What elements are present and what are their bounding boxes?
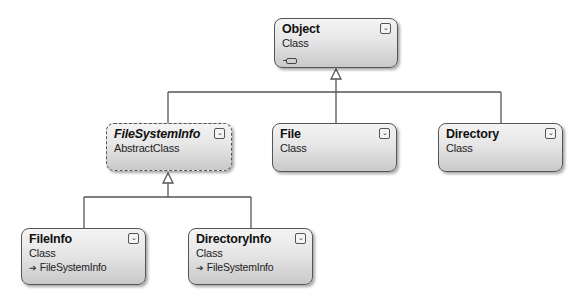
class-name: Directory: [446, 127, 556, 142]
class-kind: Class: [29, 247, 139, 260]
base-class-name: FileSystemInfo: [207, 261, 274, 273]
class-fileinfo[interactable]: FileInfo Class ➔FileSystemInfo ⌄: [21, 228, 146, 285]
collapse-chevron-icon[interactable]: ⌄: [545, 128, 556, 139]
inheritance-arrow-object: [331, 69, 341, 79]
class-name: DirectoryInfo: [196, 232, 306, 247]
base-class-name: FileSystemInfo: [40, 261, 107, 273]
class-file[interactable]: File Class ⌄: [272, 123, 397, 172]
collapse-chevron-icon[interactable]: ⌄: [380, 23, 391, 34]
class-kind: Class: [196, 247, 306, 260]
class-directoryinfo[interactable]: DirectoryInfo Class ➔FileSystemInfo ⌄: [188, 228, 313, 285]
collapse-chevron-icon[interactable]: ⌄: [295, 233, 306, 244]
class-kind: Class: [282, 37, 391, 50]
class-object[interactable]: Object Class ⌄: [274, 18, 398, 68]
base-class-label: ➔FileSystemInfo: [196, 260, 306, 275]
class-kind: Class: [446, 142, 556, 155]
class-kind: Class: [280, 142, 390, 155]
inheritance-arrow-filesysteminfo: [163, 173, 173, 183]
collapse-chevron-icon[interactable]: ⌄: [379, 128, 390, 139]
class-name: File: [280, 127, 390, 142]
inherits-arrow-icon: ➔: [29, 263, 37, 273]
class-kind: AbstractClass: [114, 142, 225, 155]
inherits-arrow-icon: ➔: [196, 263, 204, 273]
collapse-chevron-icon[interactable]: ⌄: [214, 128, 225, 139]
field-icon: [282, 50, 391, 68]
class-name: FileSystemInfo: [114, 127, 225, 142]
base-class-label: ➔FileSystemInfo: [29, 260, 139, 275]
class-name: Object: [282, 22, 391, 37]
collapse-chevron-icon[interactable]: ⌄: [128, 233, 139, 244]
class-directory[interactable]: Directory Class ⌄: [438, 123, 563, 172]
class-name: FileInfo: [29, 232, 139, 247]
class-filesysteminfo[interactable]: FileSystemInfo AbstractClass ⌄: [106, 123, 232, 171]
